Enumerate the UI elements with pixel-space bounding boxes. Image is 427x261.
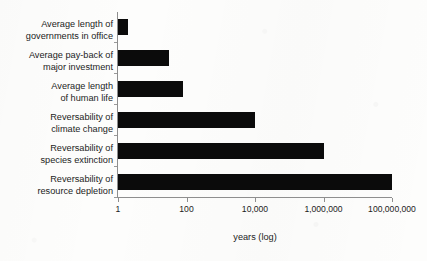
category-label-line-2: climate change [0, 124, 113, 136]
category-label-line-2: resource depletion [0, 186, 113, 198]
category-label-line-2: species extinction [0, 155, 113, 167]
y-axis-line [117, 12, 118, 198]
x-axis-tick-label: 1,000,000 [304, 204, 342, 214]
y-axis-tick [114, 135, 117, 136]
x-axis-tick [187, 198, 188, 202]
y-axis-tick [114, 42, 117, 43]
y-axis-tick [114, 197, 117, 198]
x-axis-tick [324, 198, 325, 202]
bar [118, 19, 128, 35]
category-label: Reversability of resource depletion [0, 174, 113, 197]
bar [118, 143, 324, 159]
x-axis-tick-label: 1 [116, 204, 121, 214]
category-label: Reversability of climate change [0, 112, 113, 135]
category-label-line-2: governments in office [0, 31, 113, 43]
x-axis-title: years (log) [118, 232, 392, 242]
x-axis-tick-label: 100 [179, 204, 193, 214]
bar [118, 174, 392, 190]
category-axis-labels: Average length of governments in office … [0, 12, 113, 197]
category-label-line-1: Reversability of [50, 143, 113, 153]
x-axis-tick [118, 198, 119, 202]
x-axis-tick-label: 10,000 [242, 204, 268, 214]
category-label-line-1: Reversability of [50, 174, 113, 184]
x-axis-tick-label: 100,000,000 [368, 204, 416, 214]
category-label: Average length of governments in office [0, 19, 113, 42]
bar-chart-figure: Average length of governments in office … [0, 0, 427, 261]
category-label-line-2: of human life [0, 93, 113, 105]
category-label-line-1: Average pay-back of [29, 50, 113, 60]
category-label: Average length of human life [0, 81, 113, 104]
bar [118, 112, 255, 128]
x-axis-tick [392, 198, 393, 202]
category-label-line-1: Average length of [41, 19, 113, 29]
category-label-line-1: Average length [51, 81, 113, 91]
category-label-line-1: Reversability of [50, 112, 113, 122]
plot-area: 110010,0001,000,000100,000,000 [118, 12, 392, 197]
y-axis-tick [114, 166, 117, 167]
bar [118, 81, 183, 97]
category-label: Average pay-back of major investment [0, 50, 113, 73]
x-axis-tick [255, 198, 256, 202]
y-axis-tick [114, 104, 117, 105]
bar [118, 50, 169, 66]
category-label: Reversability of species extinction [0, 143, 113, 166]
y-axis-tick [114, 73, 117, 74]
category-label-line-2: major investment [0, 62, 113, 74]
